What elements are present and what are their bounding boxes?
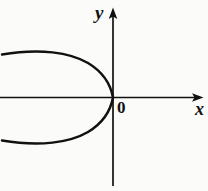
parabola-figure: y x 0: [0, 0, 208, 191]
x-axis-label: x: [195, 100, 204, 118]
y-axis-label: y: [95, 3, 103, 22]
origin-label: 0: [117, 99, 126, 116]
figure-canvas: [0, 0, 208, 191]
parabola-lower-branch: [2, 98, 113, 144]
parabola-upper-branch: [2, 51, 113, 97]
